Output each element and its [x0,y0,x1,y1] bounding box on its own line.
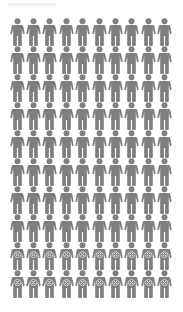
pictogram-cell [157,214,173,242]
person-icon [10,214,25,242]
person-x-icon [10,242,25,270]
person-icon [92,158,107,186]
person-icon [42,158,57,186]
pictogram-cell [140,158,156,186]
pictogram-cell [58,158,74,186]
person-icon [59,102,74,130]
pictogram-cell [9,18,25,46]
person-icon [124,214,139,242]
pictogram-cell [58,186,74,214]
pictogram-cell-affected [140,242,156,270]
pictogram-cell [124,46,140,74]
person-icon [157,74,172,102]
person-icon [157,46,172,74]
pictogram-cell [107,158,123,186]
pictogram-cell [107,214,123,242]
person-icon [42,130,57,158]
person-x-icon [92,242,107,270]
person-icon [59,74,74,102]
person-icon [141,102,156,130]
person-x-icon [124,242,139,270]
person-icon [42,186,57,214]
person-icon [75,46,90,74]
pictogram-cell [9,214,25,242]
person-icon [42,102,57,130]
pictogram-cell [107,130,123,158]
pictogram-cell [75,18,91,46]
person-icon [157,130,172,158]
pictogram-cell [157,18,173,46]
pictogram-cell-affected [9,270,25,298]
pictogram-cell [58,102,74,130]
pictogram-cell [75,158,91,186]
person-icon [108,18,123,46]
pictogram-cell [157,158,173,186]
pictogram-cell [75,46,91,74]
person-icon [10,186,25,214]
pictogram-cell [157,130,173,158]
person-icon [92,74,107,102]
person-icon [108,102,123,130]
person-x-icon [42,270,57,298]
person-icon [141,74,156,102]
pictogram-cell-affected [9,242,25,270]
pictogram-cell [25,186,41,214]
pictogram-cell [9,74,25,102]
pictogram-cell [75,130,91,158]
pictogram-cell [107,46,123,74]
pictogram-cell-affected [157,270,173,298]
pictogram-cell [9,186,25,214]
pictogram-cell [124,214,140,242]
pictogram-cell [25,214,41,242]
person-icon [26,18,41,46]
pictogram-cell [58,46,74,74]
person-icon [141,130,156,158]
person-x-icon [10,270,25,298]
person-icon [26,46,41,74]
person-x-icon [141,270,156,298]
pictogram-cell-affected [107,270,123,298]
pictogram-cell [58,18,74,46]
person-icon [59,186,74,214]
person-x-icon [26,242,41,270]
pictogram-cell [9,46,25,74]
pictogram-cell [91,102,107,130]
person-icon [108,74,123,102]
person-x-icon [157,270,172,298]
pictogram-cell-affected [42,242,58,270]
pictogram-cell [25,158,41,186]
person-x-icon [75,242,90,270]
person-icon [141,214,156,242]
person-x-icon [59,270,74,298]
pictogram-cell [124,158,140,186]
pictogram-cell [42,130,58,158]
person-icon [92,214,107,242]
pictogram-cell-affected [75,242,91,270]
person-icon [92,186,107,214]
person-icon [108,46,123,74]
pictogram-cell [107,186,123,214]
pictogram-cell [124,102,140,130]
pictogram-cell-affected [75,270,91,298]
person-icon [26,158,41,186]
pictogram-cell [9,158,25,186]
person-x-icon [108,270,123,298]
pictogram-cell [107,74,123,102]
pictogram-cell-affected [58,270,74,298]
pictogram-cell [124,18,140,46]
pictogram-cell [25,18,41,46]
pictogram-cell [58,214,74,242]
pictogram-cell [140,186,156,214]
person-icon [157,214,172,242]
person-icon [124,74,139,102]
person-icon [124,46,139,74]
person-x-icon [124,270,139,298]
person-icon [59,158,74,186]
person-icon [42,18,57,46]
person-icon [59,46,74,74]
pictogram-cell [75,74,91,102]
pictogram-cell [58,74,74,102]
pictogram-cell [75,186,91,214]
pictogram-cell [42,46,58,74]
person-icon [124,102,139,130]
